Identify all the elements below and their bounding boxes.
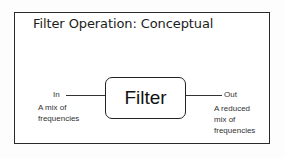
- input-description-line: frequencies: [38, 113, 98, 124]
- output-description-line: frequencies: [214, 125, 264, 136]
- input-description: A mix of frequencies: [38, 102, 98, 124]
- input-connector-line: [66, 95, 105, 96]
- output-description: A reduced mix of frequencies: [214, 103, 264, 136]
- slide-canvas: Filter Operation: Conceptual Filter In A…: [0, 0, 285, 158]
- output-label: Out: [224, 90, 237, 99]
- input-label: In: [53, 90, 60, 99]
- output-connector-line: [186, 95, 222, 96]
- slide-title: Filter Operation: Conceptual: [33, 16, 213, 31]
- output-description-line: A reduced: [214, 103, 264, 114]
- filter-block: Filter: [105, 77, 186, 119]
- filter-block-label: Filter: [124, 87, 166, 109]
- input-description-line: A mix of: [38, 102, 98, 113]
- output-description-line: mix of: [214, 114, 264, 125]
